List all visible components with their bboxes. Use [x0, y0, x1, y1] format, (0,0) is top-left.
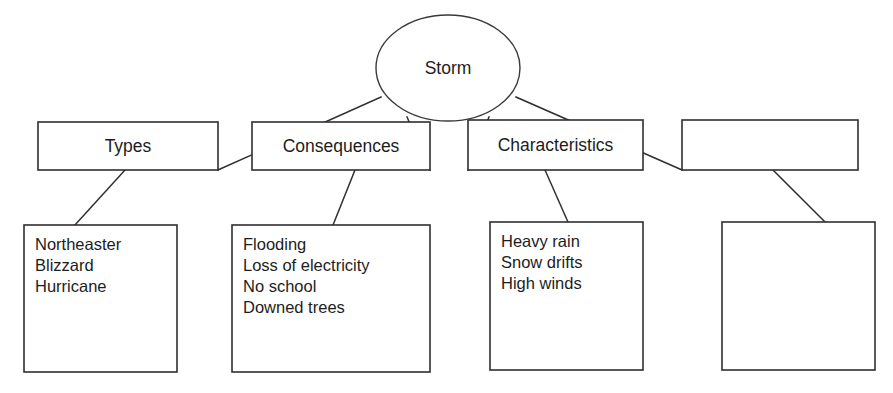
root-node-label: Storm	[425, 58, 472, 78]
category-node-types[interactable]: Types	[38, 122, 218, 170]
detail-node[interactable]: Heavy rainSnow driftsHigh winds	[490, 222, 643, 370]
detail-node[interactable]	[722, 222, 875, 370]
category-node-consequences[interactable]: Consequences	[252, 122, 430, 170]
detail-node-item: Flooding	[243, 235, 306, 253]
characteristics-to-details	[545, 170, 568, 222]
root-node-storm[interactable]: Storm	[376, 15, 520, 121]
detail-nodes-layer: NortheasterBlizzardHurricaneFloodingLoss…	[24, 222, 875, 372]
detail-node-item: Northeaster	[35, 235, 122, 253]
fourth-category-to-details	[773, 170, 825, 222]
category-node-label: Characteristics	[498, 135, 614, 155]
detail-node-item: Heavy rain	[501, 232, 580, 250]
category-node-box	[682, 120, 858, 170]
root-node-layer: Storm	[376, 15, 520, 121]
detail-node-item: Downed trees	[243, 298, 345, 316]
detail-node[interactable]: FloodingLoss of electricityNo schoolDown…	[232, 225, 430, 372]
detail-node-item: Snow drifts	[501, 253, 583, 271]
detail-node-item: Hurricane	[35, 277, 107, 295]
category-node-empty[interactable]	[682, 120, 858, 170]
detail-node-item: High winds	[501, 274, 582, 292]
category-node-label: Consequences	[283, 136, 400, 156]
concept-map-diagram: TypesConsequencesCharacteristics Northea…	[0, 0, 893, 393]
detail-node[interactable]: NortheasterBlizzardHurricane	[24, 225, 177, 372]
detail-node-box	[722, 222, 875, 370]
detail-node-item: Loss of electricity	[243, 256, 370, 274]
types-to-details	[75, 170, 125, 225]
consequences-to-details	[333, 170, 355, 225]
category-nodes-layer: TypesConsequencesCharacteristics	[38, 120, 858, 170]
detail-node-item: Blizzard	[35, 256, 94, 274]
category-node-label: Types	[105, 136, 152, 156]
category-node-characteristics[interactable]: Characteristics	[468, 120, 643, 170]
concept-map-canvas: TypesConsequencesCharacteristics Northea…	[0, 0, 893, 393]
detail-node-item: No school	[243, 277, 316, 295]
